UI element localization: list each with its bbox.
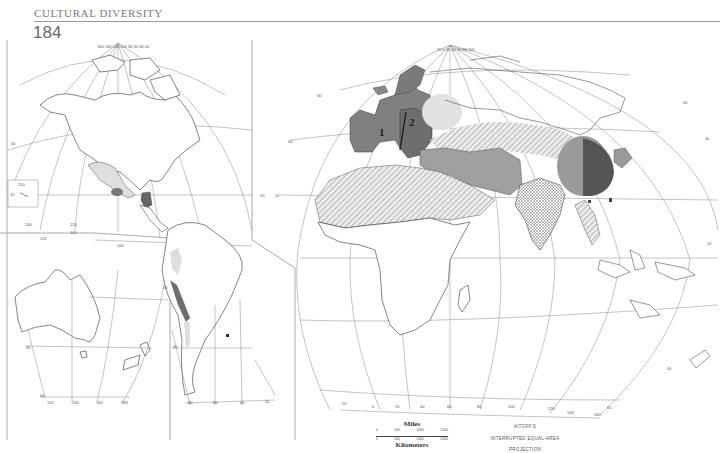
projection-name-line3: PROJECTION bbox=[470, 447, 580, 452]
svg-text:20: 20 bbox=[395, 404, 400, 409]
svg-text:80: 80 bbox=[188, 400, 193, 405]
svg-text:160: 160 bbox=[594, 412, 601, 417]
tick: 0 bbox=[376, 437, 378, 441]
svg-text:40: 40 bbox=[705, 136, 710, 141]
world-map: 150 20 160 140 120 100 80 60 40 20 bbox=[0, 0, 721, 453]
svg-text:20: 20 bbox=[163, 285, 168, 290]
north-asia bbox=[430, 56, 625, 135]
svg-text:60: 60 bbox=[683, 100, 688, 105]
svg-text:160: 160 bbox=[96, 400, 103, 405]
svg-text:160 140 120 100 80 60 40 20: 160 140 120 100 80 60 40 20 bbox=[97, 44, 150, 49]
svg-text:60: 60 bbox=[447, 404, 452, 409]
svg-text:120: 120 bbox=[47, 400, 54, 405]
svg-text:120: 120 bbox=[70, 222, 77, 227]
taiwan-dark bbox=[609, 198, 612, 202]
svg-text:0: 0 bbox=[372, 404, 375, 409]
svg-text:20: 20 bbox=[265, 399, 270, 404]
svg-text:20: 20 bbox=[10, 192, 15, 197]
projection-name-line1: AITOFF'S bbox=[470, 424, 580, 429]
maritime-southeast-asia bbox=[598, 250, 710, 368]
svg-text:20 0 20 40 60 80 100: 20 0 20 40 60 80 100 bbox=[437, 47, 476, 52]
svg-text:20: 20 bbox=[260, 193, 265, 198]
svg-text:150: 150 bbox=[18, 182, 25, 187]
svg-text:40: 40 bbox=[26, 345, 31, 350]
svg-text:80: 80 bbox=[477, 404, 482, 409]
svg-text:20: 20 bbox=[342, 401, 347, 406]
projection-name-line2: INTERRUPTED EQUAL-AREA bbox=[470, 436, 580, 441]
svg-text:20: 20 bbox=[275, 193, 280, 198]
south-asia-crosshatch bbox=[515, 178, 565, 250]
svg-text:140: 140 bbox=[567, 410, 574, 415]
svg-text:120: 120 bbox=[40, 236, 47, 241]
tick: 2000 bbox=[440, 437, 448, 441]
svg-text:60: 60 bbox=[40, 393, 45, 398]
svg-text:40: 40 bbox=[667, 366, 672, 371]
svg-text:120: 120 bbox=[548, 406, 555, 411]
russia-light bbox=[422, 94, 462, 130]
scale-bar: Miles 0 500 1000 1500 0 500 1000 2000 Ki… bbox=[372, 420, 452, 449]
scale-line bbox=[376, 432, 448, 437]
uruguay-dark bbox=[226, 334, 229, 337]
africa bbox=[318, 218, 470, 335]
svg-text:40: 40 bbox=[240, 400, 245, 405]
svg-text:40: 40 bbox=[420, 404, 425, 409]
svg-text:1: 1 bbox=[379, 126, 385, 138]
svg-text:60: 60 bbox=[317, 93, 322, 98]
svg-text:2: 2 bbox=[409, 116, 415, 128]
australia bbox=[15, 270, 150, 370]
hainan-dark bbox=[588, 200, 591, 203]
iceland bbox=[373, 86, 388, 95]
southeast-asia-hatched bbox=[575, 200, 600, 245]
svg-text:100: 100 bbox=[508, 404, 515, 409]
scale-miles-label: Miles bbox=[372, 420, 452, 428]
scale-km-label: Kilometers bbox=[372, 441, 452, 449]
central-mexico-dark bbox=[111, 188, 123, 196]
svg-text:60: 60 bbox=[213, 400, 218, 405]
south-america bbox=[162, 222, 242, 395]
korea-japan-medium bbox=[614, 148, 632, 168]
svg-text:40: 40 bbox=[288, 139, 293, 144]
svg-text:140: 140 bbox=[72, 400, 79, 405]
china-dark bbox=[583, 138, 614, 196]
svg-text:180: 180 bbox=[121, 400, 128, 405]
scandinavia bbox=[395, 65, 425, 95]
svg-text:20: 20 bbox=[707, 241, 712, 246]
svg-text:140: 140 bbox=[25, 222, 32, 227]
svg-text:140: 140 bbox=[70, 230, 77, 235]
svg-text:60: 60 bbox=[607, 405, 612, 410]
svg-text:40: 40 bbox=[11, 141, 16, 146]
hawaii-inset: 150 20 bbox=[8, 180, 38, 207]
north-america bbox=[40, 55, 200, 190]
svg-text:40: 40 bbox=[173, 344, 178, 349]
central-america bbox=[140, 205, 168, 232]
svg-text:100: 100 bbox=[117, 243, 124, 248]
